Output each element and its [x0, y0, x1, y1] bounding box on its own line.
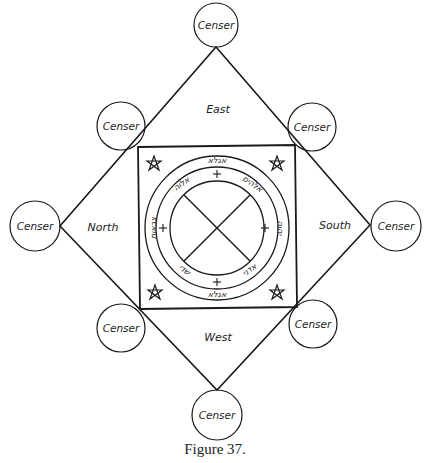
censer-top-right: Censer [288, 103, 336, 151]
inscription-right: יהוה [276, 221, 285, 237]
label-east: East [206, 103, 230, 116]
svg-text:Censer: Censer [294, 121, 331, 133]
magic-circle-diagram: אגלא אלוה אלהים יהוה אדני אגלא שדי צבאות… [0, 0, 430, 463]
inscription-left: צבאות [149, 217, 158, 239]
svg-text:Censer: Censer [378, 220, 415, 232]
svg-text:Censer: Censer [103, 120, 140, 132]
label-north: North [88, 221, 119, 234]
censer-left: Censer [10, 201, 60, 251]
censer-top: Censer [194, 3, 238, 47]
inscription-top: אגלא [208, 156, 227, 165]
figure-caption: Figure 37. [0, 441, 430, 458]
pentagram-icon [148, 285, 162, 299]
svg-text:Censer: Censer [198, 19, 235, 31]
svg-text:Censer: Censer [295, 318, 332, 330]
central-seal: אגלא אלוה אלהים יהוה אדני אגלא שדי צבאות [145, 156, 289, 300]
svg-text:Censer: Censer [199, 409, 236, 421]
label-south: South [319, 219, 351, 232]
censer-bottom-right: Censer [289, 300, 337, 348]
inscription-bottom: אגלא [208, 290, 227, 299]
censer-top-left: Censer [97, 102, 145, 150]
censer-bottom-left: Censer [97, 304, 145, 352]
svg-text:Censer: Censer [17, 220, 54, 232]
pentagram-icon [147, 156, 161, 170]
censer-right: Censer [371, 201, 421, 251]
censer-bottom: Censer [192, 390, 242, 440]
label-west: West [204, 331, 232, 344]
pentagram-icon [270, 285, 284, 299]
pentagram-icon [270, 156, 284, 170]
svg-text:Censer: Censer [103, 322, 140, 334]
inscription-top-right: אלהים [241, 174, 265, 194]
